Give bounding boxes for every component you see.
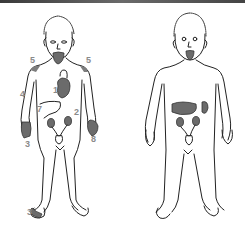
label-foot-left: 3 <box>27 208 32 217</box>
left-bladder <box>55 136 62 144</box>
right-kidney-l <box>177 118 184 127</box>
label-liver: 7 <box>37 105 42 114</box>
right-figure <box>145 13 232 219</box>
right-bladder <box>185 136 192 145</box>
left-figure <box>21 16 98 218</box>
label-shoulder-right: 5 <box>86 56 91 65</box>
label-heart: 1 <box>53 86 58 95</box>
diagram-canvas: 5 5 1 4 7 2 3 8 3 <box>0 0 245 232</box>
left-kidney-l <box>48 119 55 128</box>
left-hand-shaded <box>21 122 31 138</box>
right-liver <box>172 102 196 115</box>
right-kidney-r <box>193 117 200 126</box>
label-hand-right: 8 <box>91 135 96 144</box>
liver-outline <box>40 101 61 118</box>
left-tongue-beard <box>53 52 64 64</box>
label-side: 2 <box>74 108 79 117</box>
body-illustration <box>0 0 245 232</box>
left-kidney-r <box>65 117 72 126</box>
label-arm: 4 <box>20 90 25 99</box>
heart-organ <box>58 78 71 98</box>
label-shoulder-left: 5 <box>30 56 35 65</box>
right-spleen <box>202 102 208 114</box>
right-tongue <box>186 51 194 61</box>
label-hand-left: 3 <box>25 140 30 149</box>
